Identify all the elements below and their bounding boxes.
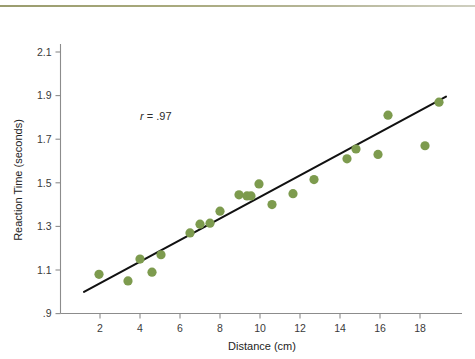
data-point	[205, 219, 214, 228]
data-point	[246, 191, 255, 200]
x-axis-title: Distance (cm)	[228, 340, 296, 352]
x-tick-label: 18	[414, 322, 426, 334]
x-tick-label: 12	[294, 322, 306, 334]
x-tick-label: 16	[374, 322, 386, 334]
x-axis-ticks: 24681012141618	[97, 314, 426, 334]
data-point	[420, 141, 429, 150]
x-tick-label: 6	[177, 322, 183, 334]
data-point	[195, 220, 204, 229]
data-point	[288, 189, 297, 198]
y-tick-label: 1.3	[37, 220, 52, 232]
x-tick-label: 10	[254, 322, 266, 334]
data-point	[351, 144, 360, 153]
data-point	[373, 150, 382, 159]
y-tick-label: 1.5	[37, 177, 52, 189]
x-tick-label: 8	[217, 322, 223, 334]
data-point	[434, 98, 443, 107]
data-point	[254, 179, 263, 188]
data-point	[267, 200, 276, 209]
data-point	[215, 207, 224, 216]
data-point	[383, 111, 392, 120]
x-tick-label: 2	[97, 322, 103, 334]
y-tick-label: 1.1	[37, 264, 52, 276]
y-tick-label: 1.7	[37, 133, 52, 145]
y-axis-title: Reaction Time (seconds)	[12, 119, 24, 241]
data-point	[342, 154, 351, 163]
data-point	[234, 190, 243, 199]
correlation-value: = .97	[144, 110, 172, 122]
correlation-annotation: r = .97	[140, 110, 172, 122]
y-tick-label: 1.9	[37, 89, 52, 101]
data-point	[185, 228, 194, 237]
data-point	[94, 270, 103, 279]
y-tick-label: .9	[43, 307, 52, 319]
data-point	[309, 175, 318, 184]
y-axis-ticks: .91.11.31.51.71.92.1	[37, 46, 61, 320]
data-point	[135, 255, 144, 264]
x-tick-label: 4	[137, 322, 143, 334]
data-point	[156, 250, 165, 259]
y-tick-label: 2.1	[37, 46, 52, 58]
data-point	[147, 268, 156, 277]
scatterplot-figure: .91.11.31.51.71.92.1 24681012141618 Reac…	[0, 0, 475, 359]
x-tick-label: 14	[334, 322, 346, 334]
data-point	[123, 276, 132, 285]
plot-canvas: .91.11.31.51.71.92.1 24681012141618 Reac…	[0, 0, 475, 359]
